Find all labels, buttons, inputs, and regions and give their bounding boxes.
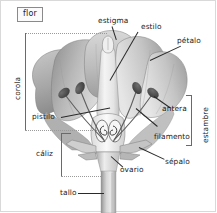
label-sepalo: sépalo [165, 158, 190, 166]
sepal-shape [120, 152, 140, 160]
caliz-bracket-top-tick [61, 133, 71, 134]
label-tallo: tallo [60, 189, 77, 197]
label-caliz: cáliz [36, 150, 53, 158]
label-estambre: estambre [202, 107, 210, 143]
label-estigma: estigma [98, 17, 128, 25]
label-corola: corola [14, 77, 22, 100]
stem-shape [101, 171, 116, 213]
figure-title-chip: flor [17, 7, 43, 22]
corola-bracket-top [25, 33, 107, 34]
leader-tallo [78, 193, 104, 194]
estambre-bracket-top-tick [186, 95, 192, 96]
flower-anatomy-figure: flor estigma estilo pétalo antera filame… [0, 0, 217, 213]
corola-bracket-spine [25, 33, 26, 130]
label-ovario: ovario [120, 166, 144, 174]
label-estilo: estilo [141, 23, 162, 31]
label-antera: antera [162, 105, 187, 113]
corola-bracket-bottom [25, 130, 97, 131]
estambre-bracket-bottom-tick [186, 145, 192, 146]
caliz-bracket-spine [61, 133, 62, 176]
label-filamento: filamento [154, 133, 190, 141]
caliz-bracket-bottom-tick [61, 176, 101, 177]
label-petalo: pétalo [177, 37, 201, 45]
sepal-shape [78, 152, 97, 160]
label-pistilo: pistilo [32, 113, 55, 121]
estambre-bracket-spine [191, 95, 192, 145]
